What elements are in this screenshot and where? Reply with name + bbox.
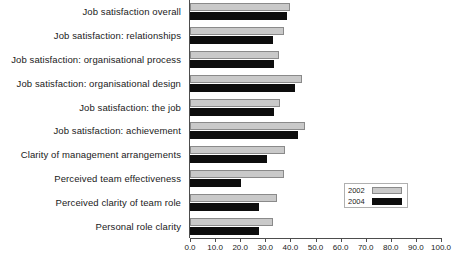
category-label: Clarity of management arrangements — [0, 149, 181, 160]
bar-2002 — [190, 218, 273, 226]
bar-2004 — [190, 203, 259, 211]
legend-swatch-2004 — [372, 198, 402, 205]
x-tick — [265, 238, 266, 242]
value-axis: 0.010.020.030.040.050.060.070.080.090.01… — [190, 238, 441, 263]
category-label: Job satisfaction: organisational process — [0, 54, 181, 65]
x-tick — [366, 238, 367, 242]
legend-item-2002: 2002 — [348, 186, 404, 195]
bar-2004 — [190, 12, 287, 20]
category-label: Job satisfaction: organisational design — [0, 78, 181, 89]
bar-group — [190, 75, 441, 92]
x-tick — [190, 238, 191, 242]
category-label: Job satisfaction overall — [0, 6, 181, 17]
bar-2002 — [190, 3, 290, 11]
bar-2004 — [190, 60, 274, 68]
bar-2002 — [190, 51, 279, 59]
x-tick — [441, 238, 442, 242]
category-label: Perceived clarity of team role — [0, 197, 181, 208]
bar-group — [190, 218, 441, 235]
category-label: Job satisfaction: the job — [0, 102, 181, 113]
bar-2002 — [190, 99, 280, 107]
legend-item-2004: 2004 — [348, 197, 404, 206]
bar-2004 — [190, 155, 267, 163]
bar-2002 — [190, 122, 305, 130]
legend: 2002 2004 — [344, 183, 408, 208]
bar-group — [190, 122, 441, 139]
bar-2002 — [190, 194, 277, 202]
x-tick — [290, 238, 291, 242]
category-label: Perceived team effectiveness — [0, 173, 181, 184]
bar-2004 — [190, 227, 259, 235]
legend-label-2002: 2002 — [348, 186, 372, 195]
bar-group — [190, 99, 441, 116]
x-tick — [215, 238, 216, 242]
x-tick-label: 100.0 — [421, 243, 456, 252]
bar-2002 — [190, 75, 302, 83]
category-label: Job satisfaction: relationships — [0, 30, 181, 41]
category-axis: Job satisfaction overallJob satisfaction… — [0, 0, 185, 238]
legend-label-2004: 2004 — [348, 197, 372, 206]
bar-2002 — [190, 146, 285, 154]
x-tick — [240, 238, 241, 242]
x-tick — [341, 238, 342, 242]
bar-2002 — [190, 170, 284, 178]
bar-2004 — [190, 108, 274, 116]
category-label: Job satisfaction: achievement — [0, 125, 181, 136]
x-tick — [416, 238, 417, 242]
bar-2004 — [190, 36, 273, 44]
x-tick — [391, 238, 392, 242]
bar-group — [190, 146, 441, 163]
legend-swatch-2002 — [372, 187, 402, 194]
bar-2004 — [190, 131, 298, 139]
bar-group — [190, 51, 441, 68]
bar-2004 — [190, 179, 241, 187]
bar-group — [190, 27, 441, 44]
x-tick — [316, 238, 317, 242]
bar-2004 — [190, 84, 295, 92]
bar-group — [190, 3, 441, 20]
bar-2002 — [190, 27, 284, 35]
category-label: Personal role clarity — [0, 221, 181, 232]
